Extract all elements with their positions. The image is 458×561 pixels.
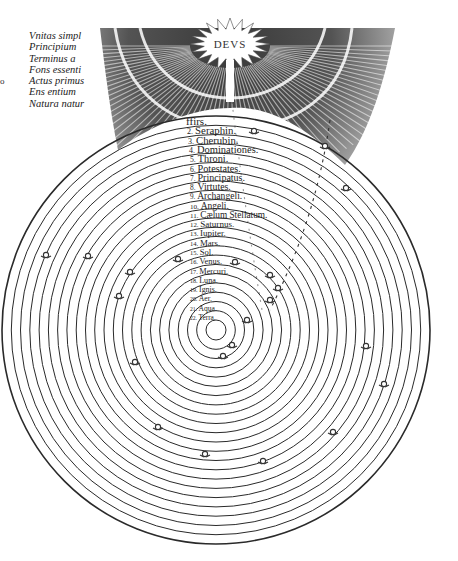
devs-label: DEVS (214, 38, 247, 50)
winged-orb-icon (341, 185, 351, 191)
attribute-line: Actus primus (29, 75, 84, 86)
attribute-line: Fons essenti (29, 64, 84, 75)
sphere-ring (169, 283, 263, 377)
winged-orb-icon (379, 381, 389, 387)
winged-orb-icon (125, 269, 135, 275)
margin-mark: o (0, 76, 5, 86)
sphere-label: 19. Ignis. (190, 285, 217, 294)
winged-orb-icon (153, 424, 163, 430)
winged-orb-icon (41, 252, 51, 258)
winged-orb-icon (83, 253, 93, 259)
winged-orb-icon (242, 317, 252, 323)
sphere-label: 17. Mercuri. (190, 267, 228, 276)
sphere-label: 20. Aer. (190, 294, 212, 303)
winged-orb-icon (273, 285, 283, 291)
attribute-line: Vnitas simpl (29, 30, 84, 41)
winged-orb-icon (258, 458, 268, 464)
winged-orb-icon (361, 343, 371, 349)
sphere-label: 21. Aqua. (190, 304, 217, 313)
attribute-line: Terminus a (29, 53, 84, 64)
sphere-label: 18. Luna. (190, 276, 218, 285)
sphere-label: 16. Venus. (190, 257, 222, 266)
attributes-of-god-list: Vnitas simpl Principium Terminus a Fons … (29, 30, 84, 109)
sphere-ring (206, 320, 226, 340)
sphere-label: 22. Terra. (190, 313, 216, 322)
attribute-line: Natura natur (29, 98, 84, 109)
attribute-line: Principium (29, 41, 84, 52)
attribute-line: Ens entium (29, 86, 84, 97)
sphere-ring (104, 218, 328, 442)
winged-orb-icon (200, 451, 210, 457)
sphere-label: 15. Sol. (190, 247, 213, 257)
winged-orb-icon (230, 259, 240, 265)
winged-orb-icon (114, 293, 124, 299)
